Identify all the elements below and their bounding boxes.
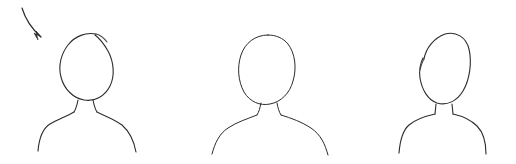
- shoulder-left-line: [38, 112, 74, 151]
- head-outline: [239, 35, 295, 105]
- bust-figure-3: [399, 33, 486, 154]
- neck-right-line: [93, 100, 97, 112]
- neck-left-line: [257, 103, 261, 115]
- head-outline: [420, 33, 471, 104]
- shoulder-left-line: [399, 114, 435, 153]
- shoulder-right-line: [453, 114, 486, 154]
- neck-right-line: [452, 104, 453, 114]
- neck-left-line: [435, 104, 436, 114]
- pointer-arrow: [22, 8, 41, 40]
- neck-right-line: [277, 103, 281, 115]
- sketch-svg: [0, 0, 516, 164]
- shoulder-right-line: [97, 112, 136, 152]
- shoulder-left-line: [212, 115, 257, 154]
- arrow-shaft: [22, 8, 41, 37]
- bust-figure-2: [212, 35, 328, 155]
- head-outline: [60, 33, 113, 100]
- sketch-canvas: [0, 0, 516, 164]
- neck-left-line: [74, 100, 78, 112]
- bust-figure-1: [38, 33, 136, 152]
- arrow-head-icon: [34, 31, 41, 40]
- shoulder-right-line: [281, 115, 328, 155]
